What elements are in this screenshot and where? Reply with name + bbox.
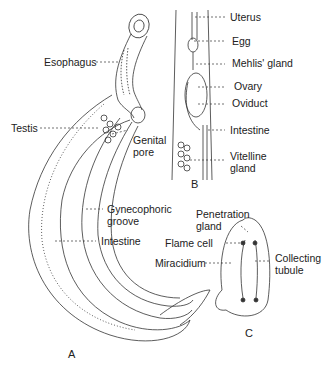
panel-label-b: B <box>191 178 198 190</box>
label-miracidium: Miracidium <box>155 257 206 269</box>
panel-c-miracidium <box>216 218 270 316</box>
label-genital-pore-line2: pore <box>133 146 154 158</box>
label-egg: Egg <box>232 35 251 47</box>
panel-label-c: C <box>245 327 253 339</box>
label-collecting-line2: tubule <box>275 264 304 276</box>
label-vitelline-line2: gland <box>230 162 256 174</box>
label-collecting-line1: Collecting <box>275 252 321 264</box>
label-penetration-line1: Penetration <box>196 208 250 220</box>
label-uterus: Uterus <box>230 11 261 23</box>
label-penetration-line2: gland <box>196 220 222 232</box>
label-testis: Testis <box>11 122 38 134</box>
panel-b-female <box>172 10 212 180</box>
label-intestine-b: Intestine <box>230 124 270 136</box>
label-vitelline-line1: Vitelline <box>230 150 267 162</box>
label-gynecophoric-line2: groove <box>107 215 139 227</box>
panel-label-a: A <box>68 348 75 360</box>
label-mehlis-gland: Mehlis' gland <box>232 57 293 69</box>
label-genital-pore-line1: Genital <box>133 134 166 146</box>
label-oviduct: Oviduct <box>232 97 268 109</box>
label-flame-cell: Flame cell <box>165 237 213 249</box>
label-esophagus: Esophagus <box>44 56 97 68</box>
label-intestine-a: Intestine <box>101 235 141 247</box>
label-ovary: Ovary <box>234 80 262 92</box>
label-gynecophoric-line1: Gynecophoric <box>107 203 172 215</box>
schistosome-anatomy-figure: Esophagus Testis Genital pore Gynecophor… <box>0 0 327 370</box>
